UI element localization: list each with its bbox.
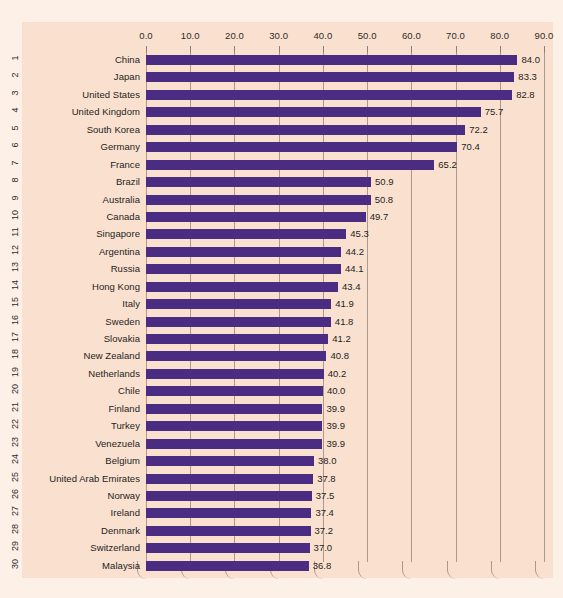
category-label: Argentina xyxy=(22,245,140,259)
row-number: 9 xyxy=(9,189,21,206)
bar xyxy=(146,491,312,501)
bar-row: 14Hong Kong43.4 xyxy=(22,279,553,296)
bar-row: 12Argentina44.2 xyxy=(22,244,553,261)
bar xyxy=(146,195,371,205)
bar-value-label: 50.8 xyxy=(375,193,394,207)
x-axis-tick-label: 10.0 xyxy=(181,30,200,41)
bar xyxy=(146,317,331,327)
bar-value-label: 65.2 xyxy=(438,158,457,172)
bar xyxy=(146,334,328,344)
bar-value-label: 39.9 xyxy=(326,419,345,433)
category-label: Singapore xyxy=(22,227,140,241)
x-axis-tick-label: 50.0 xyxy=(358,30,377,41)
bar-value-label: 83.3 xyxy=(518,70,537,84)
bar-row: 9Australia50.8 xyxy=(22,192,553,209)
row-number: 11 xyxy=(9,224,21,241)
category-label: Germany xyxy=(22,140,140,154)
bar-row: 11Singapore45.3 xyxy=(22,226,553,243)
bar xyxy=(146,72,514,82)
bar-row: 18New Zealand40.8 xyxy=(22,348,553,365)
bar-row: 22Turkey39.9 xyxy=(22,418,553,435)
bar-row: 8Brazil50.9 xyxy=(22,174,553,191)
bar-value-label: 40.2 xyxy=(328,367,347,381)
bar-value-label: 44.2 xyxy=(345,245,364,259)
bar xyxy=(146,212,366,222)
bar-row: 30Malaysia36.8 xyxy=(22,558,553,575)
bar xyxy=(146,247,341,257)
category-label: Denmark xyxy=(22,524,140,538)
bar xyxy=(146,526,311,536)
bar-row: 5South Korea72.2 xyxy=(22,122,553,139)
row-number: 26 xyxy=(9,485,21,502)
row-number: 20 xyxy=(9,381,21,398)
bar-row: 4United Kingdom75.7 xyxy=(22,104,553,121)
x-axis-tick-label: 70.0 xyxy=(446,30,465,41)
row-number: 29 xyxy=(9,538,21,555)
bar-row: 10Canada49.7 xyxy=(22,209,553,226)
bar-value-label: 72.2 xyxy=(469,123,488,137)
bar xyxy=(146,456,314,466)
row-number: 30 xyxy=(9,555,21,572)
bar-row: 2Japan83.3 xyxy=(22,69,553,86)
x-axis-tick-label: 60.0 xyxy=(402,30,421,41)
bar-row: 3United States82.8 xyxy=(22,87,553,104)
category-label: Hong Kong xyxy=(22,280,140,294)
category-label: Switzerland xyxy=(22,541,140,555)
bar-value-label: 49.7 xyxy=(370,210,389,224)
row-number: 28 xyxy=(9,520,21,537)
category-label: Turkey xyxy=(22,419,140,433)
row-number: 2 xyxy=(9,67,21,84)
row-number: 7 xyxy=(9,154,21,171)
bar-value-label: 37.0 xyxy=(314,541,333,555)
plot-panel: 0.010.020.030.040.050.060.070.080.090.0 … xyxy=(22,22,553,578)
category-label: Malaysia xyxy=(22,559,140,573)
bar-value-label: 37.4 xyxy=(315,506,334,520)
category-label: Russia xyxy=(22,262,140,276)
bar xyxy=(146,160,434,170)
bar xyxy=(146,421,322,431)
category-label: France xyxy=(22,158,140,172)
row-number: 4 xyxy=(9,102,21,119)
row-number: 18 xyxy=(9,346,21,363)
bar-value-label: 40.8 xyxy=(330,349,349,363)
bar xyxy=(146,404,322,414)
row-number: 6 xyxy=(9,136,21,153)
category-label: Chile xyxy=(22,384,140,398)
bar xyxy=(146,107,481,117)
x-axis-tick-label: 40.0 xyxy=(313,30,332,41)
bar-chart: 0.010.020.030.040.050.060.070.080.090.0 … xyxy=(0,0,563,598)
row-number: 27 xyxy=(9,503,21,520)
bar-row: 29Switzerland37.0 xyxy=(22,540,553,557)
row-number: 14 xyxy=(9,276,21,293)
bar-row: 21Finland39.9 xyxy=(22,401,553,418)
bar-value-label: 44.1 xyxy=(345,262,364,276)
bar-value-label: 75.7 xyxy=(485,105,504,119)
x-axis-tick-label: 20.0 xyxy=(225,30,244,41)
row-number: 5 xyxy=(9,119,21,136)
row-number: 12 xyxy=(9,241,21,258)
bar xyxy=(146,282,338,292)
category-label: United Arab Emirates xyxy=(22,472,140,486)
category-label: Ireland xyxy=(22,506,140,520)
bar-row: 19Netherlands40.2 xyxy=(22,366,553,383)
bar-value-label: 45.3 xyxy=(350,227,369,241)
bar xyxy=(146,561,309,571)
bar xyxy=(146,369,324,379)
row-number: 16 xyxy=(9,311,21,328)
bar-rows: 1China84.02Japan83.33United States82.84U… xyxy=(22,52,553,575)
row-number: 17 xyxy=(9,328,21,345)
bar xyxy=(146,90,512,100)
category-label: Canada xyxy=(22,210,140,224)
row-number: 19 xyxy=(9,363,21,380)
bar-value-label: 41.9 xyxy=(335,297,354,311)
bar-row: 23Venezuela39.9 xyxy=(22,436,553,453)
bar-row: 26Norway37.5 xyxy=(22,488,553,505)
bar-value-label: 37.2 xyxy=(315,524,334,538)
category-label: Belgium xyxy=(22,454,140,468)
bar-row: 17Slovakia41.2 xyxy=(22,331,553,348)
category-label: Sweden xyxy=(22,315,140,329)
row-number: 22 xyxy=(9,415,21,432)
category-label: New Zealand xyxy=(22,349,140,363)
bar-row: 15Italy41.9 xyxy=(22,296,553,313)
bar-row: 13Russia44.1 xyxy=(22,261,553,278)
